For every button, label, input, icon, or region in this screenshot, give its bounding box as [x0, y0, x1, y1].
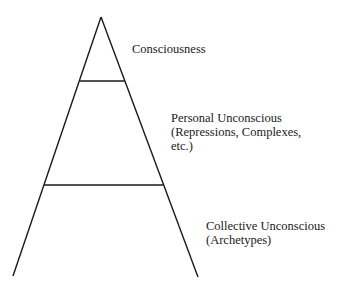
label-line: Personal Unconscious	[171, 111, 301, 125]
label-consciousness: Consciousness	[132, 42, 206, 56]
label-line: Consciousness	[132, 42, 206, 56]
label-line: etc.)	[171, 139, 301, 153]
label-line: Collective Unconscious	[206, 219, 325, 233]
label-line: (Repressions, Complexes,	[171, 125, 301, 139]
pyramid-left-edge	[13, 17, 101, 276]
label-personal-unconscious: Personal Unconscious (Repressions, Compl…	[171, 111, 301, 153]
label-collective-unconscious: Collective Unconscious (Archetypes)	[206, 219, 325, 247]
label-line: (Archetypes)	[206, 233, 325, 247]
